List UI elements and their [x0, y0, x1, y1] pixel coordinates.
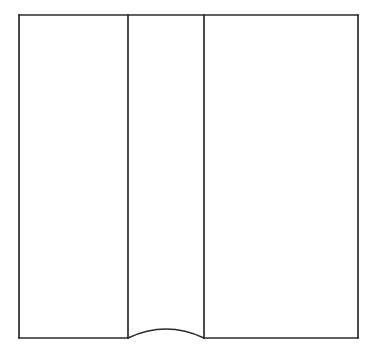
left-panel-area: [19, 15, 128, 338]
centre-panel-area: [128, 15, 204, 338]
line-drawing-svg: [0, 0, 377, 357]
panel-group: [19, 15, 358, 338]
figure-canvas: [0, 0, 377, 357]
right-panel-area: [204, 15, 358, 338]
